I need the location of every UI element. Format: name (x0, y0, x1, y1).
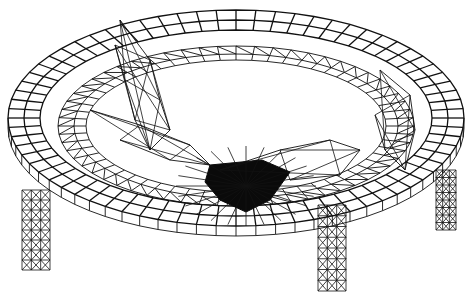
radial-arms (90, 20, 415, 180)
mesh-figure (0, 0, 469, 298)
wireframe-mesh-drawing (0, 0, 469, 298)
